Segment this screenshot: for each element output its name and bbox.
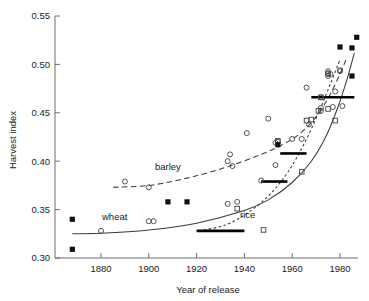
marker-filled-square: [349, 45, 354, 50]
marker-open-circle: [228, 152, 233, 157]
marker-filled-square: [165, 199, 170, 204]
chart-figure: 0.550.500.450.400.350.30 188019001920194…: [0, 0, 369, 301]
marker-filled-square: [184, 199, 189, 204]
marker-open-circle: [340, 104, 345, 109]
fit-curves: [72, 53, 354, 234]
y-tick-label: 0.35: [32, 204, 51, 215]
x-tick-label: 1960: [282, 263, 303, 274]
mean-bars: [197, 97, 355, 231]
x-axis-tick-labels: 188019001920194019601980: [90, 263, 350, 274]
x-tick-label: 1920: [186, 263, 207, 274]
x-axis: [55, 253, 358, 258]
marker-open-square: [309, 117, 314, 122]
marker-open-square: [235, 206, 240, 211]
marker-filled-square: [275, 142, 280, 147]
marker-open-circle: [146, 219, 151, 224]
marker-filled-square: [337, 44, 342, 49]
y-tick-label: 0.55: [32, 10, 51, 21]
series-label-rice: rice: [240, 209, 255, 220]
marker-open-circle: [290, 136, 295, 141]
x-tick-label: 1880: [90, 263, 111, 274]
marker-open-square: [326, 107, 331, 112]
x-tick-label: 1900: [138, 263, 159, 274]
marker-open-circle: [273, 163, 278, 168]
y-tick-label: 0.40: [32, 156, 51, 167]
marker-open-circle: [244, 131, 249, 136]
marker-open-circle: [266, 116, 271, 121]
marker-filled-square: [70, 217, 75, 222]
marker-open-circle: [304, 85, 309, 90]
y-tick-label: 0.45: [32, 107, 51, 118]
marker-open-circle: [299, 136, 304, 141]
marker-open-circle: [122, 179, 127, 184]
marker-open-circle: [235, 199, 240, 204]
y-axis-tick-labels: 0.550.500.450.400.350.30: [32, 10, 51, 263]
x-tick-label: 1980: [329, 263, 350, 274]
marker-open-circle: [333, 89, 338, 94]
harvest-index-scatter-chart: 0.550.500.450.400.350.30 188019001920194…: [0, 0, 369, 301]
marker-filled-square: [70, 247, 75, 252]
y-axis: [55, 16, 60, 258]
x-axis-title: Year of release: [176, 284, 240, 295]
series-label-barley: barley: [155, 161, 181, 172]
fit-curve-rice: [204, 60, 340, 230]
y-axis-title: Harvest index: [7, 111, 18, 169]
marker-open-circle: [330, 104, 335, 109]
x-tick-label: 1940: [234, 263, 255, 274]
y-tick-label: 0.50: [32, 59, 51, 70]
y-tick-label: 0.30: [32, 252, 51, 263]
marker-open-circle: [225, 201, 230, 206]
marker-open-circle: [146, 185, 151, 190]
series-label-wheat: wheat: [101, 211, 128, 222]
marker-open-circle: [225, 159, 230, 164]
marker-filled-square: [354, 35, 359, 40]
marker-open-square: [261, 228, 266, 233]
marker-open-circle: [99, 228, 104, 233]
marker-open-circle: [151, 219, 156, 224]
marker-filled-square: [349, 73, 354, 78]
fit-curve-wheat: [72, 53, 354, 234]
